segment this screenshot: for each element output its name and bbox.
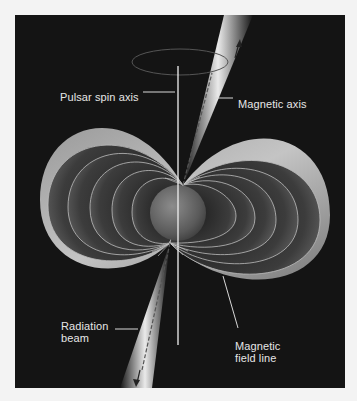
label-spin-axis: Pulsar spin axis <box>60 91 139 103</box>
label-radiation-beam: Radiation beam <box>61 320 108 344</box>
field-line-leader <box>223 276 238 328</box>
label-field-line: Magnetic field line <box>235 340 280 364</box>
pulsar-diagram: Pulsar spin axis Magnetic axis Radiation… <box>15 15 345 388</box>
label-magnetic-axis: Magnetic axis <box>238 98 307 110</box>
